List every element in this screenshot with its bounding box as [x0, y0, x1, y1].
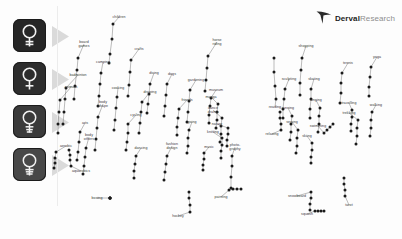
data-point [301, 57, 304, 60]
data-point [309, 209, 312, 212]
data-point [290, 123, 293, 126]
data-point [95, 138, 98, 141]
data-point [351, 109, 354, 112]
data-point [128, 84, 131, 87]
series-chain [288, 108, 294, 142]
data-point [344, 195, 347, 198]
data-point [165, 94, 168, 97]
data-point [188, 197, 191, 200]
data-point [231, 165, 234, 168]
data-point [343, 183, 346, 186]
data-point [84, 156, 87, 159]
series-chain [113, 88, 119, 132]
data-point [280, 123, 283, 126]
data-point [369, 135, 372, 138]
data-point [219, 141, 222, 144]
data-point [284, 88, 287, 91]
data-point [317, 210, 320, 213]
data-point [310, 156, 313, 159]
series-chain [76, 123, 86, 162]
data-point [55, 151, 58, 154]
data-point [300, 69, 303, 72]
data-point [232, 188, 235, 191]
data-point [221, 137, 224, 140]
data-point [163, 179, 166, 182]
data-point [310, 98, 313, 101]
data-point [138, 132, 141, 135]
series-chain [221, 188, 243, 198]
data-point [282, 108, 285, 111]
data-point [70, 165, 73, 168]
data-point [165, 163, 168, 166]
data-point [146, 112, 149, 115]
series-chain [297, 191, 313, 212]
data-point [311, 149, 314, 152]
data-point [289, 139, 292, 142]
chart-canvas: DervalResearch childrenboard gamescampin… [0, 0, 402, 239]
data-point [98, 95, 101, 98]
data-point [274, 85, 277, 88]
data-point [147, 103, 150, 106]
series-chain [299, 46, 307, 97]
data-point [178, 108, 181, 111]
data-point [111, 38, 114, 41]
data-point [166, 155, 169, 158]
data-point [220, 157, 223, 160]
data-point [208, 114, 211, 117]
data-point [310, 197, 313, 200]
series-chain [213, 132, 224, 160]
series-chain [108, 17, 120, 65]
data-point [134, 163, 137, 166]
series-chain [73, 44, 85, 101]
data-point [207, 55, 210, 58]
data-point [206, 67, 209, 70]
series-chain [163, 74, 173, 118]
series-chain [127, 49, 140, 98]
data-point [350, 123, 353, 126]
data-point [217, 103, 220, 106]
data-point [127, 95, 130, 98]
series-chain [369, 105, 377, 138]
data-point [188, 100, 191, 103]
data-point [116, 96, 119, 99]
data-point [189, 204, 192, 207]
data-point [299, 94, 302, 97]
data-point [318, 115, 321, 118]
data-point [64, 98, 67, 101]
data-point [176, 126, 179, 129]
data-point [295, 152, 298, 155]
data-point [58, 111, 61, 114]
series-chain [202, 147, 210, 172]
data-point [357, 119, 360, 122]
data-point [318, 123, 321, 126]
data-point [240, 188, 243, 191]
data-point [310, 162, 313, 165]
data-point [369, 76, 372, 79]
data-point [202, 164, 205, 167]
series-chain [133, 148, 142, 180]
data-point [317, 131, 320, 134]
series-chain [309, 79, 315, 120]
data-point [76, 159, 79, 162]
data-point [129, 71, 132, 74]
data-point [314, 210, 317, 213]
series-chain [307, 136, 314, 165]
data-point [127, 132, 130, 135]
series-chain [282, 79, 290, 120]
data-point [344, 189, 347, 192]
data-point [187, 111, 190, 114]
data-point [108, 62, 111, 65]
data-point [231, 155, 234, 158]
data-point [310, 191, 313, 194]
series-chain [97, 62, 104, 108]
data-point [99, 83, 102, 86]
data-point [273, 71, 276, 74]
data-point [280, 129, 283, 132]
data-point [319, 107, 322, 110]
data-point [339, 102, 342, 105]
data-point [326, 129, 329, 132]
data-point [309, 108, 312, 111]
data-point [141, 101, 144, 104]
data-point [203, 158, 206, 161]
series-chain [176, 100, 188, 137]
